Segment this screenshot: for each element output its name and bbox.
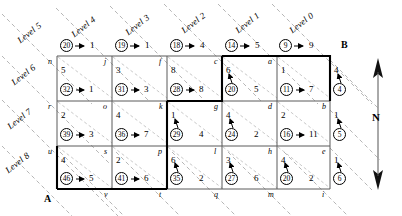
top-weight-3: 5 [255, 41, 260, 50]
cell-top-value-p: 6 [171, 156, 176, 165]
compass-label-n: N [372, 112, 380, 123]
cell-side-value-n: 1 [89, 85, 94, 94]
right-top-value-1: 1 [334, 111, 339, 120]
cell-top-value-r: 2 [61, 111, 66, 120]
bottom-node-label-v: v [104, 191, 108, 199]
right-circle-2[interactable]: 6 [333, 172, 346, 185]
top-node-circle-3[interactable]: 14 [225, 39, 238, 52]
cell-top-value-u: 4 [61, 156, 66, 165]
cell-circle-l[interactable]: 27 [225, 172, 238, 185]
cell-circle-k[interactable]: 29 [170, 128, 183, 141]
top-weight-1: 1 [145, 41, 150, 50]
right-top-value-0: 4 [334, 66, 339, 75]
cell-diagonals [58, 57, 330, 188]
cell-node-label-p: p [158, 148, 162, 156]
right-node-label-e: e [322, 148, 326, 156]
cell-node-label-n: n [48, 58, 52, 66]
cell-side-value-p: 2 [199, 174, 204, 183]
cell-side-value-g: 2 [254, 130, 259, 139]
cell-node-label-h: h [268, 148, 272, 156]
compass-needle-icon [373, 58, 383, 190]
cell-top-value-l: 3 [226, 156, 231, 165]
top-weight-4: 9 [309, 41, 314, 50]
cell-top-value-a: 1 [281, 66, 286, 75]
cell-node-label-l: l [214, 148, 216, 156]
top-node-circle-2[interactable]: 18 [170, 39, 183, 52]
top-node-circle-0[interactable]: 20 [60, 39, 73, 52]
cell-node-label-u: u [48, 148, 52, 156]
top-weight-0: 1 [90, 41, 95, 50]
cell-top-value-d: 2 [281, 111, 286, 120]
cell-top-value-h: 4 [281, 156, 286, 165]
cell-side-value-a: 7 [309, 85, 314, 94]
cell-node-label-g: g [214, 103, 218, 111]
cell-circle-j[interactable]: 31 [115, 83, 128, 96]
cell-circle-u[interactable]: 46 [60, 172, 73, 185]
cell-side-value-c: 5 [254, 85, 259, 94]
corner-label-b: B [341, 40, 348, 50]
cell-circle-o[interactable]: 36 [115, 128, 128, 141]
cell-top-value-s: 2 [116, 156, 121, 165]
cell-side-value-f: 8 [199, 85, 204, 94]
right-top-value-2: 1 [334, 156, 339, 165]
corner-label-a: A [44, 194, 51, 204]
cell-side-value-s: 6 [144, 174, 149, 183]
right-node-label-b: b [322, 103, 326, 111]
right-circle-0[interactable]: 4 [333, 83, 346, 96]
bottom-node-label-q: q [214, 191, 218, 199]
cell-node-label-d: d [268, 103, 272, 111]
grid-lines [57, 56, 330, 189]
cell-side-value-d: 11 [309, 130, 318, 139]
cell-side-value-h: 2 [309, 174, 314, 183]
diagram-canvas: Level 5 Level 4 Level 3 Level 2 Level 1 … [0, 0, 402, 216]
cell-side-value-o: 7 [144, 130, 149, 139]
cell-circle-c[interactable]: 20 [225, 83, 238, 96]
cell-circle-a[interactable]: 11 [280, 83, 293, 96]
cell-node-label-c: c [214, 58, 218, 66]
cell-node-label-r: r [48, 103, 51, 111]
cell-circle-r[interactable]: 39 [60, 128, 73, 141]
cell-node-label-o: o [103, 103, 107, 111]
cell-top-value-k: 1 [171, 111, 176, 120]
cell-node-label-s: s [104, 148, 107, 156]
top-node-circle-1[interactable]: 19 [115, 39, 128, 52]
cell-circle-h[interactable]: 20 [280, 172, 293, 185]
cell-top-value-c: 6 [226, 66, 231, 75]
cell-node-label-a: a [268, 58, 272, 66]
top-node-circle-4[interactable]: 9 [279, 39, 292, 52]
cell-top-value-f: 8 [171, 66, 176, 75]
cell-top-value-n: 5 [61, 66, 66, 75]
cell-circle-g[interactable]: 24 [225, 128, 238, 141]
cell-side-value-k: 4 [199, 130, 204, 139]
cell-top-value-g: 4 [226, 111, 231, 120]
cell-side-value-u: 5 [89, 174, 94, 183]
cell-side-value-l: 6 [254, 174, 259, 183]
cell-top-value-j: 3 [116, 66, 121, 75]
cell-side-value-j: 3 [144, 85, 149, 94]
cell-node-label-k: k [159, 103, 163, 111]
bottom-node-label-m: m [268, 191, 274, 199]
cell-node-label-j: j [104, 58, 106, 66]
cell-top-value-o: 4 [116, 111, 121, 120]
top-weight-2: 4 [200, 41, 205, 50]
right-circle-1[interactable]: 5 [333, 128, 346, 141]
bottom-node-label-t: t [159, 191, 161, 199]
cell-circle-s[interactable]: 41 [115, 172, 128, 185]
highlight-path [57, 56, 330, 189]
cell-circle-n[interactable]: 32 [60, 83, 73, 96]
bottom-node-label-i: i [322, 191, 324, 199]
cell-side-value-r: 3 [89, 130, 94, 139]
cell-node-label-f: f [159, 58, 161, 66]
cell-circle-d[interactable]: 16 [280, 128, 293, 141]
cell-circle-p[interactable]: 35 [170, 172, 183, 185]
cell-circle-f[interactable]: 28 [170, 83, 183, 96]
